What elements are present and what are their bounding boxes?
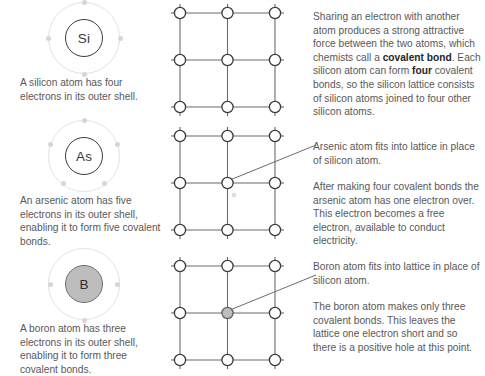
boron-atom-figure: B [0,248,168,320]
boron-atom-caption: A boron atom has three electrons in its … [20,322,164,376]
silicon-row: Si A silicon atom has four electrons in … [0,0,485,118]
free-electron-dot [232,193,237,198]
arsenic-explanation-paragraph: After making four covalent bonds the ars… [313,180,483,248]
arsenic-leader-line [230,145,316,180]
arsenic-atom-figure: As [0,120,168,192]
silicon-lattice-column [168,0,313,118]
arsenic-annotation-paragraph: Arsenic atom fits into lattice in place … [313,140,483,167]
arsenic-row: As An arsenic atom has five electrons in… [0,118,485,246]
silicon-atom-column: Si A silicon atom has four electrons in … [0,0,168,118]
boron-lattice-column [168,246,313,376]
silicon-text-column: Sharing an electron with another atom pr… [313,0,485,118]
boron-text-column: Boron atom fits into lattice in place of… [313,246,485,376]
atom-nucleus-b: B [65,265,103,303]
boron-row: B A boron atom has three electrons in it… [0,246,485,376]
electron-dot [115,142,120,147]
boron-dopant-atom [222,307,233,318]
electron-dot [82,0,87,5]
boron-annotation-paragraph: Boron atom fits into lattice in place of… [313,260,483,287]
silicon-atom-figure: Si [0,2,168,74]
atom-nucleus-si: Si [65,19,103,57]
silicon-atom-caption: A silicon atom has four electrons in its… [20,76,164,103]
electron-dot [61,181,66,186]
electron-dot [46,36,51,41]
arsenic-dopant-atom [222,177,233,188]
arsenic-atom-caption: An arsenic atom has five electrons in it… [20,194,164,248]
atom-nucleus-as: As [65,137,103,175]
arsenic-text-column: Arsenic atom fits into lattice in place … [313,118,485,246]
electron-dot [48,282,53,287]
boron-leader-line [230,275,316,310]
electron-dot [118,36,123,41]
electron-dot [115,282,120,287]
electron-dot [102,181,107,186]
arsenic-lattice-column [168,118,313,246]
boron-atom-column: B A boron atom has three electrons in it… [0,246,168,376]
arsenic-atom-column: As An arsenic atom has five electrons in… [0,118,168,246]
silicon-explanation-paragraph: Sharing an electron with another atom pr… [313,10,483,119]
silicon-lattice-diagram [168,0,313,118]
electron-dot [82,118,87,123]
electron-dot [48,142,53,147]
boron-explanation-paragraph: The boron atom makes only three covalent… [313,300,483,354]
